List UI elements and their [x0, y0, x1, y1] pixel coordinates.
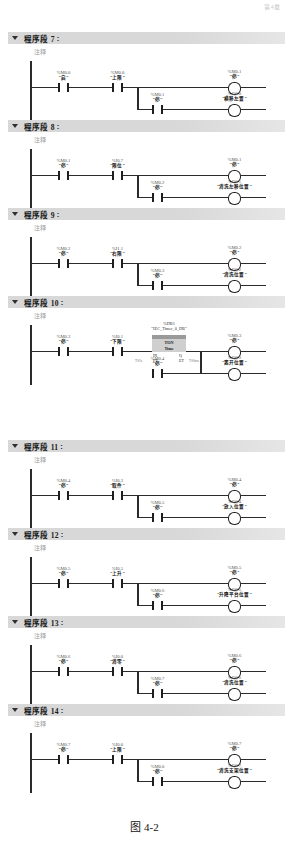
network-title: 程序段 12: [24, 529, 59, 540]
tag-symbol: "停": [57, 747, 71, 752]
contact-no[interactable]: [58, 347, 69, 356]
contact-no[interactable]: [112, 259, 123, 268]
contact-no[interactable]: [112, 755, 123, 764]
network-header-bar[interactable]: 程序段 9:: [8, 208, 285, 220]
tag-label: %M0.1"停": [228, 157, 242, 167]
contact-no[interactable]: [58, 755, 69, 764]
tag-symbol: "停": [151, 505, 165, 510]
output-coil-branch[interactable]: [228, 104, 241, 115]
tag-label: %M0.5"停": [228, 565, 242, 575]
collapse-triangle-icon[interactable]: [12, 212, 18, 216]
collapse-triangle-icon[interactable]: [12, 708, 18, 712]
ladder-rung-area: %M0.3"停"%I0.1"下限"TONTime"IEC_Timer_0_DB"…: [0, 323, 289, 381]
network-header-bar[interactable]: 程序段 10:: [8, 296, 285, 308]
tag-label: %Q0.0"横移左置": [222, 91, 247, 101]
output-coil-branch[interactable]: [228, 776, 241, 787]
tag-symbol: "停": [57, 571, 71, 576]
network-comment[interactable]: 注释: [34, 455, 289, 464]
ladder-rung-area: %M0.7"停"%I0.0"上限"%M0.7"停"%M0.0"停"%Q0.7"清…: [0, 731, 289, 783]
tag-label: %M0.6"停": [57, 654, 71, 664]
contact-no[interactable]: [58, 171, 69, 180]
network-title-colon: :: [57, 122, 60, 131]
network-title: 程序段 9: [24, 209, 55, 220]
network-nw9: 程序段 9:注释%M0.2"停"%I1.1"右限"%M0.2"停"%M0.3"停…: [0, 208, 289, 287]
timer-instance-db: %DB1: [163, 321, 175, 326]
contact-no[interactable]: [58, 491, 69, 500]
contact-no[interactable]: [112, 579, 123, 588]
contact-no[interactable]: [58, 579, 69, 588]
ladder-rung-area: %M0.6"停"%I0.0"清零"%M0.6"停"%M0.7"停"%Q0.6"清…: [0, 643, 289, 695]
tag-symbol: "离开位置": [222, 360, 247, 365]
network-comment[interactable]: 注释: [34, 223, 289, 232]
coil-right-arc: [234, 192, 241, 205]
output-coil-branch[interactable]: [228, 512, 241, 523]
network-comment[interactable]: 注释: [34, 47, 289, 56]
contact-no-branch[interactable]: [152, 193, 163, 202]
tag-label: %I0.3"取件": [110, 478, 125, 488]
tag-symbol: "停": [228, 338, 242, 343]
contact-no-branch[interactable]: [152, 601, 163, 610]
tag-label: %M0.7"停": [151, 676, 165, 686]
output-coil-branch[interactable]: [228, 688, 241, 699]
network-comment[interactable]: 注释: [34, 543, 289, 552]
tag-label: %M0.0"上限": [110, 70, 125, 80]
contact-no[interactable]: [58, 667, 69, 676]
contact-no-branch[interactable]: [152, 281, 163, 290]
collapse-triangle-icon[interactable]: [12, 300, 18, 304]
network-title: 程序段 7: [24, 33, 55, 44]
network-nw12: 程序段 12:注释%M0.5"停"%I0.5"上升"%M0.5"停"%M0.6"…: [0, 528, 289, 607]
ton-timer-block[interactable]: TONTime: [152, 335, 186, 353]
network-nw8: 程序段 8:注释%M0.1"停"%I0.7"限位"%M0.1"停"%M0.2"停…: [0, 120, 289, 199]
network-comment[interactable]: 注释: [34, 719, 289, 728]
network-header-bar[interactable]: 程序段 11:: [8, 440, 285, 452]
contact-no-branch[interactable]: [152, 777, 163, 786]
network-header-bar[interactable]: 程序段 7:: [8, 32, 285, 44]
collapse-triangle-icon[interactable]: [12, 620, 18, 624]
contact-no[interactable]: [112, 491, 123, 500]
output-coil-branch[interactable]: [228, 600, 241, 611]
ladder-rung-area: %M0.4"停"%I0.3"取件"%M0.4"停"%M0.5"停"%Q0.4"放…: [0, 467, 289, 519]
output-coil-branch[interactable]: [228, 192, 241, 203]
ladder-rung-area: %M0.1"停"%I0.7"限位"%M0.1"停"%M0.2"停"%Q0.1"清…: [0, 147, 289, 199]
network-title-colon: :: [60, 442, 63, 451]
contact-no[interactable]: [112, 171, 123, 180]
network-comment[interactable]: 注释: [34, 311, 289, 320]
tag-symbol: "停": [151, 361, 165, 366]
tag-symbol: "停": [151, 273, 165, 278]
network-header-bar[interactable]: 程序段 8:: [8, 120, 285, 132]
network-comment[interactable]: 注释: [34, 631, 289, 640]
collapse-triangle-icon[interactable]: [12, 36, 18, 40]
contact-no[interactable]: [112, 667, 123, 676]
collapse-triangle-icon[interactable]: [12, 444, 18, 448]
network-comment[interactable]: 注释: [34, 135, 289, 144]
network-title-colon: :: [61, 298, 64, 307]
network-nw14: 程序段 14:注释%M0.7"停"%I0.0"上限"%M0.7"停"%M0.0"…: [0, 704, 289, 783]
contact-no-branch[interactable]: [152, 513, 163, 522]
tag-symbol: "横移左置": [222, 96, 247, 101]
timer-pt-value[interactable]: T#2s: [135, 359, 142, 363]
contact-no-branch[interactable]: [152, 105, 163, 114]
network-header-bar[interactable]: 程序段 13:: [8, 616, 285, 628]
output-coil-branch[interactable]: [228, 280, 241, 291]
tag-symbol: "停": [228, 250, 242, 255]
collapse-triangle-icon[interactable]: [12, 532, 18, 536]
coil-right-arc: [234, 368, 241, 381]
contact-no[interactable]: [58, 259, 69, 268]
contact-no[interactable]: [112, 83, 123, 92]
collapse-triangle-icon[interactable]: [12, 124, 18, 128]
coil-right-arc: [234, 104, 241, 117]
tag-symbol: "清洗支架位置": [217, 768, 252, 773]
output-coil-branch[interactable]: [228, 368, 241, 379]
timer-et-value: T#0ms: [189, 359, 199, 363]
network-header-bar[interactable]: 程序段 12:: [8, 528, 285, 540]
tag-label: %I0.5"上升": [110, 566, 125, 576]
contact-no-branch[interactable]: [152, 689, 163, 698]
network-nw11: 程序段 11:注释%M0.4"停"%I0.3"取件"%M0.4"停"%M0.5"…: [0, 440, 289, 519]
tag-symbol: "停": [151, 769, 165, 774]
contact-no[interactable]: [112, 347, 123, 356]
power-rail: [30, 325, 32, 385]
contact-no[interactable]: [58, 83, 69, 92]
contact-no-branch[interactable]: [152, 369, 163, 378]
coil-right-arc: [234, 280, 241, 293]
network-header-bar[interactable]: 程序段 14:: [8, 704, 285, 716]
